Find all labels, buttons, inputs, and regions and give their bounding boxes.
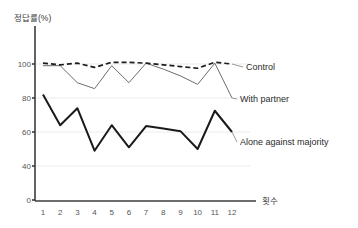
x-tick-label: 12 <box>228 208 237 217</box>
x-tick-label: 10 <box>193 208 202 217</box>
y-tick-label: 100 <box>18 60 32 69</box>
y-tick-label: 40 <box>22 162 31 171</box>
x-tick-label: 8 <box>161 208 166 217</box>
y-tick-label: 60 <box>22 128 31 137</box>
chart-container: 정답률(%) 0406080100 123456789101112 횟수 Con… <box>0 0 358 228</box>
x-tick-label: 6 <box>127 208 132 217</box>
line-chart: 정답률(%) 0406080100 123456789101112 횟수 Con… <box>0 0 358 228</box>
x-tick-label: 11 <box>211 208 220 217</box>
legend-label-alone-against-majority: Alone against majority <box>240 137 329 147</box>
x-tick-label: 9 <box>178 208 183 217</box>
x-tick-label: 2 <box>58 208 63 217</box>
x-axis-label: 횟수 <box>262 196 278 206</box>
x-axis-ticks: 123456789101112 <box>41 208 237 217</box>
x-tick-label: 7 <box>144 208 149 217</box>
series-line-alone-against-majority <box>43 95 232 151</box>
legend-label-control: Control <box>246 62 275 72</box>
y-tick-label: 0 <box>27 196 32 205</box>
leader-line-alone-against-majority <box>232 132 237 142</box>
series-line-with-partner <box>43 63 232 98</box>
y-axis-ticks: 0406080100 <box>18 60 35 205</box>
x-tick-label: 5 <box>110 208 115 217</box>
y-axis-label: 정답률(%) <box>14 13 51 23</box>
x-tick-label: 4 <box>92 208 97 217</box>
x-tick-label: 3 <box>75 208 80 217</box>
legend-label-with-partner: With partner <box>240 94 289 104</box>
y-tick-label: 80 <box>22 94 31 103</box>
series-line-control <box>43 62 232 68</box>
x-tick-label: 1 <box>41 208 46 217</box>
